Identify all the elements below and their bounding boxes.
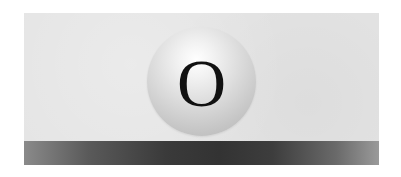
- sphere-letter: O: [177, 49, 226, 117]
- sphere-icon: O: [147, 27, 256, 136]
- graphic-canvas: O: [0, 0, 401, 177]
- gradient-bar: [24, 141, 379, 165]
